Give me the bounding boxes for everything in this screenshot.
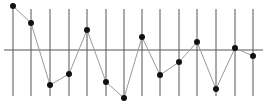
data-point	[103, 79, 109, 85]
data-point	[232, 45, 238, 51]
data-point	[176, 59, 182, 65]
data-markers	[10, 3, 256, 101]
data-point	[121, 95, 127, 101]
data-point	[10, 3, 16, 9]
data-point	[250, 53, 256, 59]
data-point	[28, 20, 34, 26]
data-point	[157, 72, 163, 78]
line-chart	[0, 0, 265, 109]
data-point	[84, 27, 90, 33]
data-point	[213, 86, 219, 92]
data-point	[66, 71, 72, 77]
data-point	[47, 82, 53, 88]
data-point	[139, 34, 145, 40]
data-point	[194, 39, 200, 45]
